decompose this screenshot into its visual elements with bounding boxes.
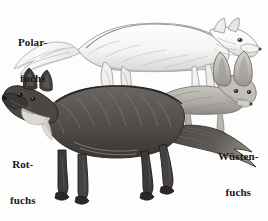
label-polarfuchs-line1: Polar- [18, 36, 48, 48]
label-polarfuchs-line2: fuchs [18, 72, 48, 84]
label-wuestenfuchs-line2: fuchs [218, 186, 258, 198]
label-polarfuchs: Polar- fuchs [18, 12, 48, 108]
label-wuestenfuchs-line1: Wüsten- [218, 150, 258, 162]
fox-comparison-plate: Polar- fuchs Rot- fuchs Wüsten- fuchs [0, 0, 268, 221]
label-rotfuchs: Rot- fuchs [10, 134, 36, 221]
label-wuestenfuchs: Wüsten- fuchs [218, 126, 258, 221]
label-rotfuchs-line2: fuchs [10, 194, 36, 206]
label-rotfuchs-line1: Rot- [10, 158, 36, 170]
